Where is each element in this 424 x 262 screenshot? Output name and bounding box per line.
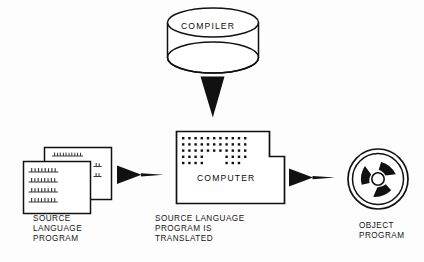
computer-node [177, 132, 285, 204]
reel-hub [372, 173, 384, 185]
computer-label: COMPUTER [197, 173, 255, 183]
object-program-node [348, 149, 408, 209]
compiler-label: COMPILER [181, 21, 235, 31]
arrow-computer-to-object [289, 169, 335, 187]
source-program-node [24, 148, 112, 214]
compiler-node [168, 8, 259, 73]
translation-caption: SOURCE LANGUAGE PROGRAM IS TRANSLATED [155, 214, 245, 245]
computer-body [177, 132, 285, 204]
diagram-canvas: COMPILER COMPUTER SOURCE LANGUAGE PROGRA… [0, 0, 424, 262]
arrow-source-to-computer [117, 166, 164, 185]
object-program-caption: OBJECT PROGRAM [359, 221, 404, 241]
arrow-compiler-to-computer [201, 77, 225, 118]
source-program-caption: SOURCE LANGUAGE PROGRAM [33, 214, 82, 245]
source-sheet-front [24, 162, 91, 214]
